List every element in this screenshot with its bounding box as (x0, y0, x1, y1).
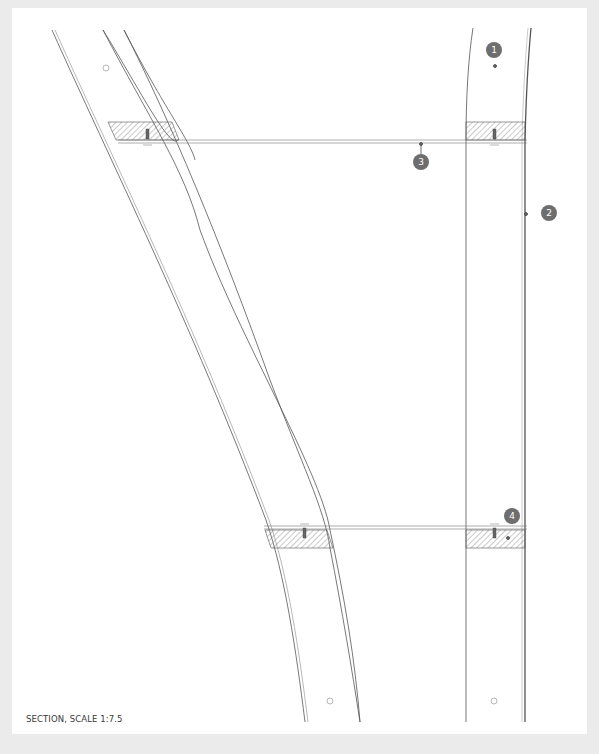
holes (103, 65, 497, 704)
callout-4: 4 (504, 508, 520, 524)
section-drawing (0, 0, 599, 754)
screws (143, 129, 499, 538)
callout-1: 1 (486, 42, 502, 58)
hatched-blocks (108, 122, 525, 548)
drawing-caption: SECTION, SCALE 1:7.5 (26, 714, 123, 724)
left-curved-member (52, 30, 360, 722)
callout-3: 3 (413, 154, 429, 170)
callout-2: 2 (541, 205, 557, 221)
